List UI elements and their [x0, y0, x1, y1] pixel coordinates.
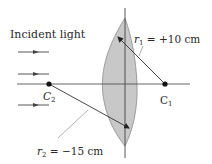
r1-value: +10 cm	[159, 33, 200, 45]
r2-label: r2 = −15 cm	[37, 146, 103, 159]
c1-symbol: C	[160, 94, 168, 106]
c2-subscript: 2	[51, 96, 55, 104]
lens-diagram: Incident light r1 = +10 cm r2 = −15 cm C…	[0, 0, 212, 164]
c1-subscript: 1	[168, 100, 172, 108]
c1-point	[162, 81, 167, 86]
c2-symbol: C	[43, 90, 51, 102]
c2-point	[46, 81, 51, 86]
r1-equals: =	[144, 33, 159, 45]
r2-value: −15 cm	[62, 145, 103, 157]
c2-label: C2	[43, 91, 56, 104]
r1-leader-line	[139, 46, 143, 56]
r2-equals: =	[47, 145, 62, 157]
lens	[102, 18, 137, 146]
r1-label: r1 = +10 cm	[134, 34, 200, 47]
incident-light-label: Incident light	[10, 29, 85, 40]
r2-leader-line	[58, 110, 88, 138]
diagram-graphics	[0, 0, 212, 164]
c1-label: C1	[160, 95, 173, 108]
